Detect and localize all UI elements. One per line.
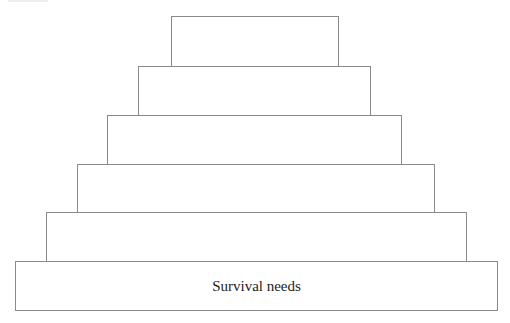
- faint-artifact: [8, 0, 48, 2]
- pyramid-level-3: [77, 164, 435, 213]
- pyramid-level-4: [107, 115, 402, 165]
- pyramid-level-1-survival-needs: Survival needs: [15, 261, 498, 311]
- pyramid-level-5: [138, 66, 371, 116]
- pyramid-level-6-top: [171, 16, 339, 67]
- level-label: Survival needs: [212, 278, 301, 295]
- pyramid-level-2: [46, 212, 467, 262]
